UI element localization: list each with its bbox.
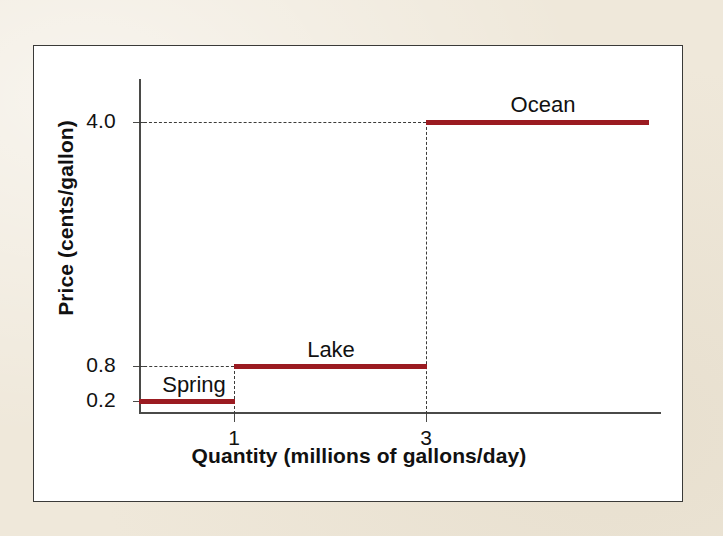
- chart-panel: 4.0 0.8 0.2 1 3 Spring Lake Ocean Quanti…: [33, 45, 683, 502]
- segment-label-ocean: Ocean: [511, 92, 576, 118]
- supply-segment-spring: [139, 399, 235, 404]
- segment-label-spring: Spring: [162, 372, 226, 398]
- guideline-quantity-3: [426, 122, 427, 414]
- supply-segment-lake: [234, 364, 427, 369]
- x-axis-title: Quantity (millions of gallons/day): [34, 444, 684, 468]
- plot-area: 4.0 0.8 0.2 1 3 Spring Lake Ocean Quanti…: [34, 46, 682, 501]
- guideline-price-0-8: [139, 366, 234, 367]
- x-axis-line: [139, 412, 661, 414]
- guideline-quantity-1: [234, 366, 235, 414]
- supply-segment-ocean: [426, 120, 649, 125]
- guideline-price-4-0: [139, 122, 426, 123]
- segment-label-lake: Lake: [307, 337, 355, 363]
- y-tick-label-0-2: 0.2: [46, 388, 116, 412]
- y-axis-line: [139, 79, 141, 412]
- figure-canvas: 4.0 0.8 0.2 1 3 Spring Lake Ocean Quanti…: [0, 0, 723, 536]
- y-axis-title: Price (cents/gallon): [54, 68, 78, 368]
